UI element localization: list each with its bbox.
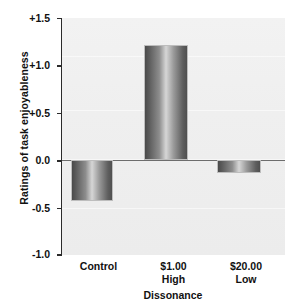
x-category-sublabel-2: Low [207, 273, 285, 286]
x-category-label-2: $20.00 [207, 260, 285, 273]
y-tick-3: +0.5 [57, 113, 62, 114]
y-tick-label-1: +1.5 [29, 12, 50, 24]
y-tick-label-5: -0.5 [32, 202, 50, 214]
y-tick-1: +1.5 [57, 18, 62, 19]
background-band [62, 208, 285, 209]
y-tick-6: -1.0 [57, 254, 62, 255]
bar-one-dollar [144, 45, 188, 161]
x-category-twenty-dollar: $20.00 Low [207, 260, 285, 286]
x-category-control: Control [61, 260, 136, 273]
plot-area: +1.5 +1.0 +0.5 0.0 -0.5 -1.0 [61, 18, 285, 255]
chart-figure: Ratings of task enjoyableness +1.5 +1.0 … [0, 0, 292, 307]
y-tick-label-2: +1.0 [29, 59, 50, 71]
y-tick-label-6: -1.0 [32, 248, 50, 260]
bar-control [71, 160, 113, 201]
y-tick-2: +1.0 [57, 65, 62, 66]
x-axis-title: Dissonance [61, 289, 285, 301]
x-category-one-dollar: $1.00 High [136, 260, 211, 286]
x-category-sublabel-1: High [136, 273, 211, 286]
x-category-label-1: $1.00 [136, 260, 211, 273]
y-tick-label-3: +0.5 [29, 107, 50, 119]
y-axis-title: Ratings of task enjoyableness [18, 8, 30, 248]
y-tick-label-4: 0.0 [35, 154, 50, 166]
x-category-label-0: Control [61, 260, 136, 273]
bar-twenty-dollar [217, 160, 261, 173]
y-tick-5: -0.5 [57, 208, 62, 209]
